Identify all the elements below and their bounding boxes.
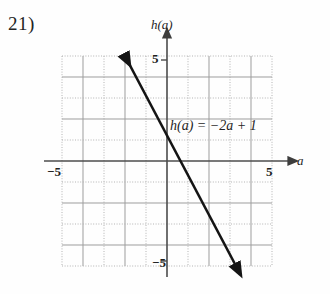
axes — [44, 37, 289, 277]
equation-annotation: h(a) = −2a + 1 — [170, 119, 257, 133]
tick-label-y-min: −5 — [152, 256, 166, 269]
worksheet-page: 21) — [0, 0, 330, 294]
tick-label-x-max: 5 — [266, 165, 273, 178]
coordinate-graph — [0, 0, 330, 294]
y-axis-label: h(a) — [151, 18, 173, 31]
tick-label-x-min: −5 — [47, 165, 61, 178]
x-axis-label: a — [297, 154, 304, 167]
tick-label-y-max: 5 — [152, 52, 159, 65]
